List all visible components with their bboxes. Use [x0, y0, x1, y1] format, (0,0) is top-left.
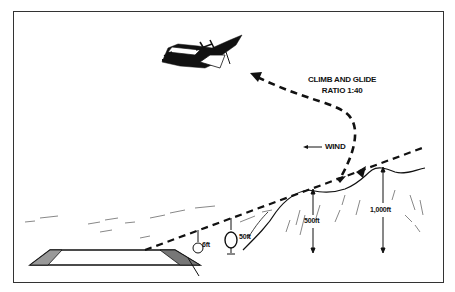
height-label-50ft: 50ft — [239, 233, 251, 240]
height-label-6ft: 6ft — [202, 241, 210, 248]
arrowhead-icon — [250, 72, 262, 82]
diagram-scene — [0, 0, 455, 292]
height-label-500ft: 500ft — [304, 217, 319, 224]
climb-glide-caption: CLIMB AND GLIDE RATIO 1:40 — [308, 74, 376, 96]
runway — [30, 250, 200, 276]
wind-label: WIND — [325, 142, 346, 151]
arrow-left-icon — [303, 145, 322, 149]
terrain — [243, 168, 425, 250]
terrain-texture — [25, 190, 423, 238]
arrowhead-icon — [336, 176, 346, 183]
height-label-1000ft: 1,000ft — [370, 206, 391, 213]
transport-aircraft-icon — [162, 35, 242, 68]
climb-caption-line1: CLIMB AND GLIDE — [308, 74, 376, 85]
climb-caption-line2: RATIO 1:40 — [308, 85, 376, 96]
height-marker-50ft — [225, 218, 237, 254]
